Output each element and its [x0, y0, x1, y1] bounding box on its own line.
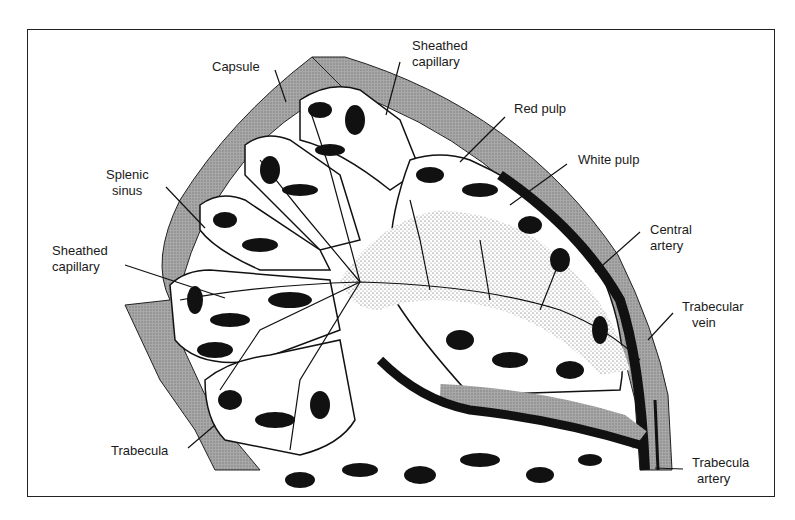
label-line: vein	[682, 315, 744, 331]
label-splenic-sinus: Splenic sinus	[106, 167, 149, 199]
label-line: capillary	[52, 259, 108, 275]
label-trabecula: Trabecula	[111, 443, 168, 459]
label-line: sinus	[106, 183, 149, 199]
label-trabecula-artery: Trabecula artery	[692, 455, 749, 487]
spleen-illustration	[0, 0, 795, 520]
label-white-pulp: White pulp	[578, 152, 639, 168]
label-sheathed-capillary-left: Sheathed capillary	[52, 243, 108, 275]
label-trabecular-vein: Trabecular vein	[682, 299, 744, 331]
label-line: Splenic	[106, 167, 149, 183]
label-line: Trabecular	[682, 299, 744, 315]
label-line: capillary	[412, 54, 468, 70]
label-line: Central	[650, 222, 692, 238]
label-line: Sheathed	[52, 243, 108, 259]
label-line: Trabecula	[692, 455, 749, 471]
label-line: artery	[650, 238, 692, 254]
label-sheathed-capillary-top: Sheathed capillary	[412, 38, 468, 70]
label-line: Sheathed	[412, 38, 468, 54]
label-line: artery	[692, 471, 749, 487]
label-central-artery: Central artery	[650, 222, 692, 254]
label-red-pulp: Red pulp	[514, 101, 566, 117]
label-capsule: Capsule	[212, 59, 260, 75]
